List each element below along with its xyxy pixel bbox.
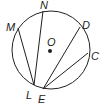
chord-CE <box>43 53 88 89</box>
chord-ML <box>18 28 34 85</box>
circle-diagram: N M D C O L E <box>0 0 108 107</box>
label-N: N <box>40 0 48 11</box>
label-D: D <box>82 19 90 31</box>
center-point <box>48 49 52 53</box>
label-O: O <box>47 36 56 48</box>
label-E: E <box>38 93 46 105</box>
chord-NL <box>34 11 43 85</box>
label-C: C <box>91 50 99 62</box>
label-L: L <box>26 89 32 101</box>
label-M: M <box>6 21 16 33</box>
